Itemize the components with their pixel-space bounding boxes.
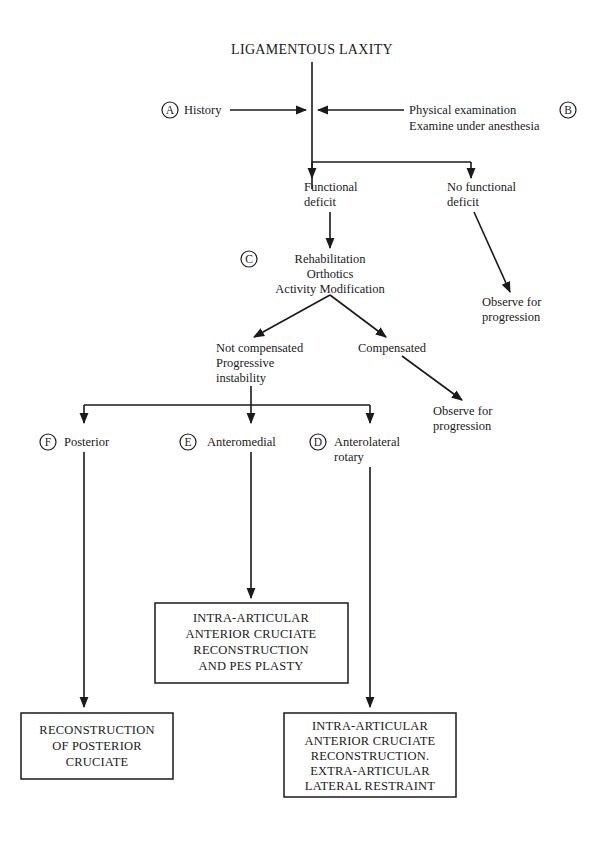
observe-1-line-2: progression [482,310,541,324]
not-compensated-line-2: Progressive [216,356,275,370]
box-posterior-line-2: OF POSTERIOR [52,739,142,753]
box-posterior: RECONSTRUCTION OF POSTERIOR CRUCIATE [21,713,173,779]
flowchart: LIGAMENTOUS LAXITY A History Physical ex… [0,0,614,846]
box-anterolateral-line-5: LATERAL RESTRAINT [305,779,436,793]
node-posterior: F Posterior [40,434,110,450]
exam-line-2: Examine under anesthesia [409,119,540,133]
node-compensated: Compensated [358,341,427,355]
box-anteromedial-line-2: ANTERIOR CRUCIATE [186,627,317,641]
functional-deficit-line-1: Functional [304,180,358,194]
node-observe-1: Observe for progression [482,295,542,324]
marker-f: F [45,436,51,448]
box-posterior-line-1: RECONSTRUCTION [39,723,154,737]
box-anteromedial-line-1: INTRA-ARTICULAR [193,611,310,625]
anteromedial-label: Anteromedial [207,435,276,449]
marker-e: E [184,436,191,448]
observe-2-line-2: progression [433,419,492,433]
arrow-to-observe-1 [474,212,510,292]
box-anterolateral-line-1: INTRA-ARTICULAR [312,719,429,733]
box-anteromedial: INTRA-ARTICULAR ANTERIOR CRUCIATE RECONS… [155,603,348,683]
node-observe-2: Observe for progression [433,404,493,433]
marker-a: A [166,104,175,116]
box-anterolateral: INTRA-ARTICULAR ANTERIOR CRUCIATE RECONS… [284,713,456,797]
arrow-to-observe-2 [402,356,462,400]
no-functional-deficit-line-1: No functional [447,180,517,194]
not-compensated-line-3: instability [216,371,267,385]
node-rehab: C Rehabilitation Orthotics Activity Modi… [241,251,385,296]
rehab-line-1: Rehabilitation [295,252,367,266]
box-anterolateral-line-3: RECONSTRUCTION. [311,749,430,763]
node-not-compensated: Not compensated Progressive instability [216,341,304,385]
observe-1-line-1: Observe for [482,295,542,309]
anterolateral-line-1: Anterolateral [334,435,400,449]
node-no-functional-deficit: No functional deficit [447,180,517,209]
node-history: A History [162,102,222,118]
anterolateral-line-2: rotary [334,450,365,464]
node-anterolateral: D Anterolateral rotary [310,434,400,464]
node-exam: Physical examination Examine under anest… [409,102,576,133]
marker-d: D [314,436,322,448]
rehab-line-3: Activity Modification [275,282,385,296]
box-anterolateral-line-2: ANTERIOR CRUCIATE [305,734,436,748]
node-anteromedial: E Anteromedial [180,434,276,450]
box-anteromedial-line-4: AND PES PLASTY [199,659,304,673]
history-label: History [184,103,222,117]
not-compensated-line-1: Not compensated [216,341,304,355]
arrow-to-not-compensated [254,295,330,337]
compensated-label: Compensated [358,341,427,355]
title: LIGAMENTOUS LAXITY [231,42,393,57]
arrow-to-compensated [330,295,386,337]
box-anteromedial-line-3: RECONSTRUCTION [193,643,308,657]
no-functional-deficit-line-2: deficit [447,195,479,209]
marker-b: B [564,104,572,116]
functional-deficit-line-2: deficit [304,195,336,209]
exam-line-1: Physical examination [409,103,517,117]
rehab-line-2: Orthotics [307,267,354,281]
posterior-label: Posterior [64,435,110,449]
observe-2-line-1: Observe for [433,404,493,418]
node-functional-deficit: Functional deficit [304,180,358,209]
box-posterior-line-3: CRUCIATE [66,755,129,769]
box-anterolateral-line-4: EXTRA-ARTICULAR [310,764,430,778]
marker-c: C [245,253,253,265]
